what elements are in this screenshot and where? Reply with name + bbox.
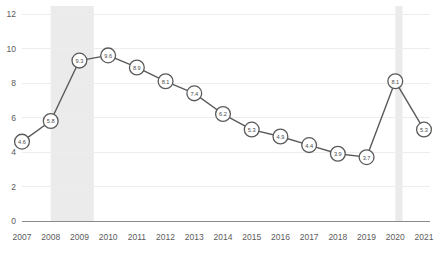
y-tick-label: 2 <box>11 182 16 192</box>
recession-band-2020 <box>395 6 402 221</box>
x-tick-label: 2016 <box>271 232 290 242</box>
y-tick-label: 6 <box>11 113 16 123</box>
line-chart: 024681012 200720082009201020112012201320… <box>0 0 445 262</box>
x-tick-label: 2017 <box>300 232 319 242</box>
data-point: 3.9 <box>330 146 345 161</box>
marker-value-label: 4.4 <box>305 143 313 149</box>
data-point: 8.9 <box>129 60 144 75</box>
x-tick-label: 2008 <box>41 232 60 242</box>
data-point: 9.6 <box>101 48 116 63</box>
x-tick-label: 2019 <box>357 232 376 242</box>
data-point: 4.6 <box>15 134 30 149</box>
data-point: 3.7 <box>359 150 374 165</box>
data-point: 9.3 <box>72 53 87 68</box>
x-tick-label: 2011 <box>128 232 147 242</box>
marker-value-label: 5.3 <box>420 127 428 133</box>
y-tick-label: 8 <box>11 78 16 88</box>
marker-value-label: 6.2 <box>219 111 227 117</box>
y-tick-label: 12 <box>7 9 17 19</box>
data-point: 7.4 <box>187 86 202 101</box>
data-point: 5.8 <box>43 114 58 129</box>
chart-canvas: 024681012 200720082009201020112012201320… <box>0 0 445 262</box>
marker-value-label: 8.1 <box>391 79 399 85</box>
x-tick-label: 2007 <box>13 232 32 242</box>
marker-value-label: 5.8 <box>47 118 55 124</box>
x-tick-label: 2013 <box>185 232 204 242</box>
x-tick-label: 2012 <box>156 232 175 242</box>
x-tick-label: 2009 <box>70 232 89 242</box>
x-tick-label: 2018 <box>328 232 347 242</box>
marker-value-label: 4.6 <box>18 139 26 145</box>
marker-value-label: 8.1 <box>162 79 170 85</box>
x-tick-label: 2021 <box>415 232 434 242</box>
data-point: 5.3 <box>244 122 259 137</box>
y-tick-label: 10 <box>7 44 17 54</box>
data-point: 8.1 <box>158 74 173 89</box>
data-point: 4.9 <box>273 129 288 144</box>
recession-band-2008 <box>51 6 94 221</box>
y-tick-label: 4 <box>11 147 16 157</box>
marker-value-label: 5.3 <box>248 127 256 133</box>
data-point: 6.2 <box>216 107 231 122</box>
data-point: 8.1 <box>388 74 403 89</box>
x-tick-label: 2014 <box>214 232 233 242</box>
x-tick-label: 2015 <box>242 232 261 242</box>
data-point: 5.3 <box>417 122 432 137</box>
data-point: 4.4 <box>302 138 317 153</box>
marker-value-label: 4.9 <box>277 134 285 140</box>
x-tick-label: 2020 <box>386 232 405 242</box>
marker-value-label: 3.9 <box>334 151 342 157</box>
marker-value-label: 7.4 <box>190 91 198 97</box>
x-axis-tick-labels: 2007200820092010201120122013201420152016… <box>13 232 434 242</box>
marker-value-label: 9.3 <box>76 58 84 64</box>
marker-value-label: 9.6 <box>104 53 112 59</box>
y-tick-label: 0 <box>11 216 16 226</box>
x-tick-label: 2010 <box>99 232 118 242</box>
marker-value-label: 8.9 <box>133 65 141 71</box>
marker-value-label: 3.7 <box>363 155 371 161</box>
